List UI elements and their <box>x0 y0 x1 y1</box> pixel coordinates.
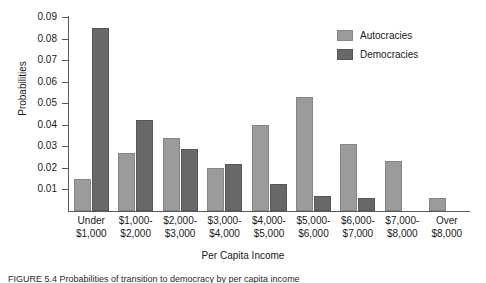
y-tick-mark <box>62 17 68 18</box>
bar-democracies <box>270 184 287 211</box>
bar-group <box>252 17 287 211</box>
bar-group <box>74 17 109 211</box>
x-tick-label-line1: $2,000- <box>158 215 202 228</box>
y-tick-mark <box>62 60 68 61</box>
y-tick-label: 0.02 <box>38 161 57 174</box>
y-tick-label: 0.07 <box>38 53 57 66</box>
bar-group <box>118 17 153 211</box>
y-tick-label: 0.08 <box>38 32 57 45</box>
bar-democracies <box>92 28 109 211</box>
y-tick: 0.05 <box>62 103 68 104</box>
y-axis-title: Probabilities <box>17 29 28 149</box>
y-tick-mark <box>62 146 68 147</box>
y-tick: 0.08 <box>62 39 68 40</box>
x-tick-label: Over$8,000 <box>425 215 469 240</box>
x-tick-label-line2: $6,000 <box>291 228 335 241</box>
legend-swatch-democracies <box>337 49 353 60</box>
bar-democracies <box>225 164 242 211</box>
y-tick-mark <box>62 39 68 40</box>
bar-autocracies <box>296 97 313 211</box>
x-tick-label-line2: $8,000 <box>380 228 424 241</box>
x-tick-label-line1: $6,000- <box>336 215 380 228</box>
x-tick-label-line2: $4,000 <box>202 228 246 241</box>
y-tick-label: 0.03 <box>38 139 57 152</box>
y-tick-label: 0.09 <box>38 10 57 23</box>
bar-autocracies <box>163 138 180 211</box>
bar-autocracies <box>207 168 224 211</box>
legend-swatch-autocracies <box>337 30 353 41</box>
y-tick-mark <box>62 82 68 83</box>
bar-autocracies <box>385 161 402 211</box>
y-tick-label: 0.04 <box>38 118 57 131</box>
x-tick-label-line1: Over <box>425 215 469 228</box>
x-tick-label-line2: $2,000 <box>113 228 157 241</box>
x-tick-label-line1: $3,000- <box>202 215 246 228</box>
y-tick: 0.04 <box>62 125 68 126</box>
x-tick-label: $6,000-$7,000 <box>336 215 380 240</box>
legend: Autocracies Democracies <box>337 28 418 66</box>
x-tick-label-line2: $8,000 <box>425 228 469 241</box>
x-tick-label-line1: $4,000- <box>247 215 291 228</box>
x-tick-label-line1: $1,000- <box>113 215 157 228</box>
x-tick-label-line1: $7,000- <box>380 215 424 228</box>
x-axis-title: Per Capita Income <box>0 250 486 261</box>
y-tick: 0.09 <box>62 17 68 18</box>
bar-autocracies <box>74 179 91 211</box>
bar-democracies <box>136 120 153 211</box>
x-tick-label: $1,000-$2,000 <box>113 215 157 240</box>
y-tick-mark <box>62 168 68 169</box>
y-tick-label: 0.01 <box>38 182 57 195</box>
bar-autocracies <box>252 125 269 211</box>
y-tick: 0.06 <box>62 82 68 83</box>
x-tick-label-line1: $5,000- <box>291 215 335 228</box>
bar-group <box>429 17 464 211</box>
x-tick-label: $3,000-$4,000 <box>202 215 246 240</box>
legend-item-autocracies: Autocracies <box>337 28 418 43</box>
bar-democracies <box>358 198 375 211</box>
x-tick-label-line1: Under <box>69 215 113 228</box>
y-tick-label: 0.05 <box>38 96 57 109</box>
x-tick-label: $5,000-$6,000 <box>291 215 335 240</box>
bar-autocracies <box>340 144 357 211</box>
legend-label-democracies: Democracies <box>360 49 418 60</box>
y-tick: 0.03 <box>62 146 68 147</box>
legend-item-democracies: Democracies <box>337 47 418 62</box>
bar-group <box>163 17 198 211</box>
bar-democracies <box>181 149 198 212</box>
legend-label-autocracies: Autocracies <box>360 30 412 41</box>
bar-autocracies <box>118 153 135 211</box>
bar-group <box>207 17 242 211</box>
y-tick-mark <box>62 103 68 104</box>
y-tick: 0.01 <box>62 189 68 190</box>
x-tick-label-line2: $1,000 <box>69 228 113 241</box>
x-tick-label: Under$1,000 <box>69 215 113 240</box>
y-tick: 0.02 <box>62 168 68 169</box>
bar-autocracies <box>429 198 446 211</box>
y-tick-mark <box>62 125 68 126</box>
x-tick-label: $4,000-$5,000 <box>247 215 291 240</box>
y-tick-label: 0.06 <box>38 75 57 88</box>
x-tick-label-line2: $7,000 <box>336 228 380 241</box>
x-axis-line <box>68 211 470 212</box>
x-tick-label: $7,000-$8,000 <box>380 215 424 240</box>
figure-bar-chart: Probabilities 0.010.020.030.040.050.060.… <box>0 0 486 283</box>
x-tick-label-line2: $3,000 <box>158 228 202 241</box>
y-tick: 0.07 <box>62 60 68 61</box>
x-tick-label: $2,000-$3,000 <box>158 215 202 240</box>
x-tick-label-line2: $5,000 <box>247 228 291 241</box>
bar-group <box>296 17 331 211</box>
y-tick-mark <box>62 189 68 190</box>
figure-caption: FIGURE 5.4 Probabilities of transition t… <box>8 274 300 283</box>
bar-democracies <box>314 196 331 211</box>
